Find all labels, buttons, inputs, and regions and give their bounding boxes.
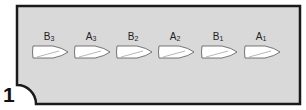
panel-frame [0, 0, 306, 110]
boat-label: B1 [213, 32, 224, 43]
boat-label: B2 [128, 32, 139, 43]
diagram-panel: B3A3B2A2B1A1 1 [0, 0, 306, 110]
boat-label: B3 [44, 32, 55, 43]
boat-label: A2 [170, 32, 181, 43]
boat-label: A1 [256, 32, 267, 43]
panel-number: 1 [3, 84, 15, 105]
boat-label: A3 [86, 32, 97, 43]
